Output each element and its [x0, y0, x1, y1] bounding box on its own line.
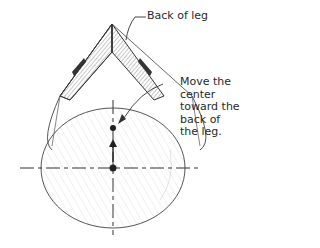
original-center-point	[110, 165, 117, 172]
new-center-point	[110, 125, 116, 131]
label-line: toward the	[180, 101, 240, 114]
label-back-of-leg: Back of leg	[147, 10, 208, 23]
label-line: the leg.	[180, 126, 240, 139]
label-move-center: Move the center toward the back of the l…	[180, 76, 240, 139]
leg-top-pyramid	[60, 24, 164, 100]
label-line: Move the	[180, 76, 240, 89]
leader-back-of-leg	[126, 17, 146, 40]
